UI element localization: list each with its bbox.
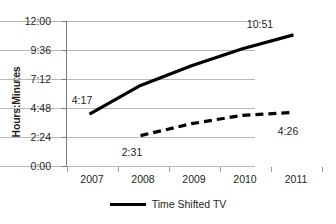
data-label-dashed-last: 4:26 <box>268 125 308 137</box>
legend-label-time-shifted-tv: Time Shifted TV <box>152 198 227 210</box>
series-line-time-shifted-tv <box>90 35 294 114</box>
data-label-solid-first: 4:17 <box>62 94 102 106</box>
data-label-dashed-first: 2:31 <box>112 146 152 158</box>
legend-swatch-time-shifted-tv <box>110 203 146 206</box>
line-chart: Hours:Minutes 12:00 9:36 7:12 4:48 2:24 … <box>0 0 336 224</box>
chart-legend: Time Shifted TV <box>0 198 336 210</box>
series-layer <box>0 0 336 224</box>
data-label-solid-last: 10:51 <box>236 18 284 30</box>
